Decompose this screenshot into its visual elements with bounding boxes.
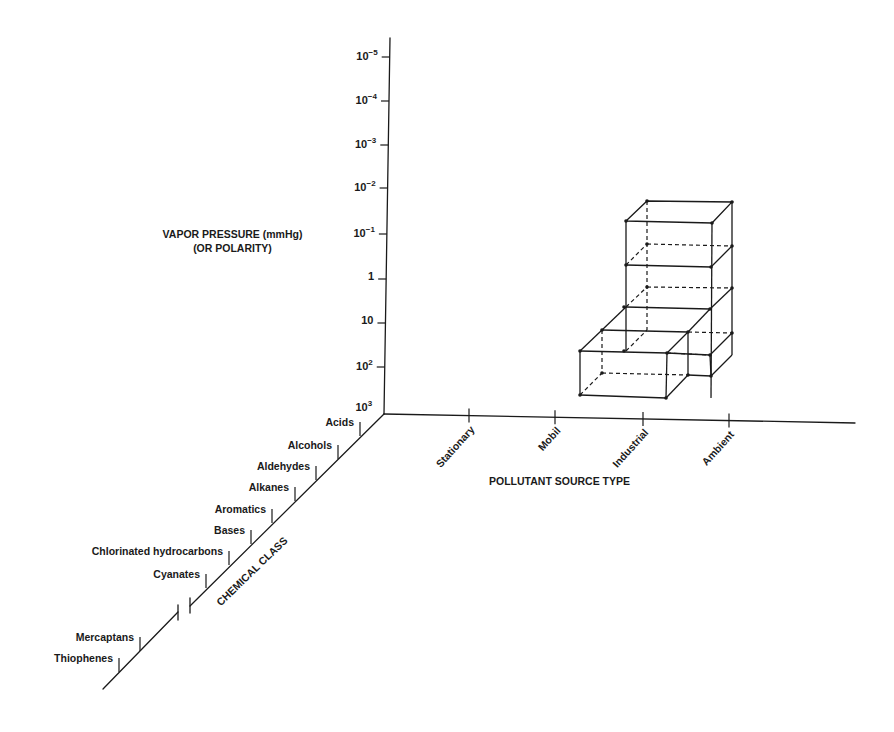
chemical-class-label: Thiophenes <box>0 653 113 664</box>
vertex-dot <box>578 393 582 397</box>
vertex-dot <box>709 265 713 269</box>
chemical-class-label: Alcohols <box>132 440 332 451</box>
vertical-axis-tick-label: 1 <box>334 271 374 282</box>
chemical-class-label: Chlorinated hydrocarbons <box>23 546 223 557</box>
vertex-dot <box>622 349 626 353</box>
vertex-dot <box>730 200 734 204</box>
vertical-axis-tick-label: 10−3 <box>336 137 376 150</box>
horizontal-axis-title: POLLUTANT SOURCE TYPE <box>472 475 647 489</box>
vertex-dot <box>686 330 690 334</box>
wireframe-hidden-edges <box>580 201 732 395</box>
horizontal-axis-line <box>384 414 855 423</box>
figure: VAPOR PRESSURE (mmHg) (OR POLARITY) 10−5… <box>0 0 894 732</box>
vertical-axis-title: VAPOR PRESSURE (mmHg) (OR POLARITY) <box>135 228 330 255</box>
vertical-axis-tick-label: 102 <box>333 359 373 372</box>
vertex-dot <box>664 396 668 400</box>
chemical-class-label: Acids <box>154 417 354 428</box>
vertical-axis-tick-label: 10−2 <box>336 180 376 193</box>
vertex-dot <box>730 244 734 248</box>
vertex-dot <box>730 331 734 335</box>
axes-and-blocks <box>0 0 894 732</box>
vertex-dot <box>708 307 712 311</box>
vertical-axis-tick-label: 10−4 <box>337 93 377 106</box>
vertex-dot <box>708 353 712 357</box>
chemical-class-label: Bases <box>45 525 245 536</box>
vertical-axis-tick-label: 10−5 <box>338 49 378 62</box>
chemical-class-label: Aromatics <box>66 504 266 515</box>
vertex-dot <box>624 219 628 223</box>
vertex-dot <box>624 263 628 267</box>
vertex-dot <box>600 371 604 375</box>
chemical-class-label: Cyanates <box>0 569 200 580</box>
vertex-dot <box>709 374 713 378</box>
chemical-class-label: Aldehydes <box>110 461 310 472</box>
vertex-dot <box>686 373 690 377</box>
vertex-dot <box>645 242 649 246</box>
vertex-dot <box>645 199 649 203</box>
vertical-axis-tick-label: 103 <box>332 400 372 413</box>
vertex-dot <box>600 328 604 332</box>
vertex-dot <box>710 221 714 225</box>
wireframe-blocks <box>580 201 732 398</box>
vertical-axis-tick-label: 10 <box>333 315 373 326</box>
vertex-dot <box>665 351 669 355</box>
vertical-axis-line <box>384 38 390 414</box>
vertex-dot <box>645 285 649 289</box>
vertex-dot <box>730 286 734 290</box>
vertex-dot <box>622 305 626 309</box>
vertex-dot <box>578 349 582 353</box>
chemical-class-label: Mercaptans <box>0 632 134 643</box>
vertical-axis-tick-label: 10−1 <box>335 226 375 239</box>
vertical-axis-title-line2: (OR POLARITY) <box>135 242 330 256</box>
chemical-class-label: Alkanes <box>89 482 289 493</box>
vertical-axis-title-line1: VAPOR PRESSURE (mmHg) <box>135 228 330 242</box>
